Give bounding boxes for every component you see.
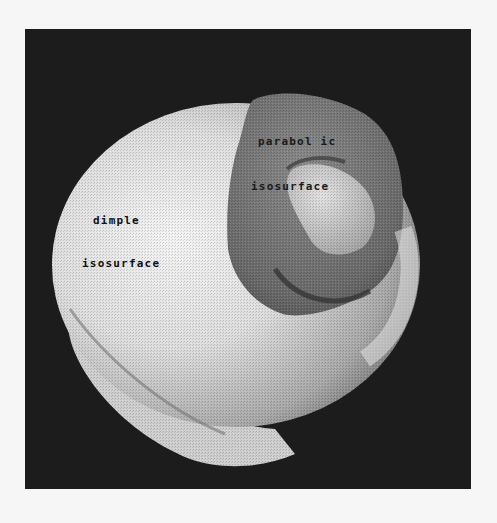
dimple-isosurface-label: dimple isosurface bbox=[82, 191, 160, 294]
paraboloid-label-line1: parabol ic bbox=[251, 136, 336, 148]
figure-page: dimple isosurface parabol ic isosurface bbox=[0, 0, 497, 523]
dimple-label-line1: dimple bbox=[82, 215, 160, 227]
dimple-label-line2: isosurface bbox=[82, 258, 160, 270]
render-viewport: dimple isosurface parabol ic isosurface bbox=[25, 29, 471, 489]
paraboloid-isosurface-label: parabol ic isosurface bbox=[251, 112, 336, 217]
paraboloid-label-line2: isosurface bbox=[251, 181, 336, 193]
